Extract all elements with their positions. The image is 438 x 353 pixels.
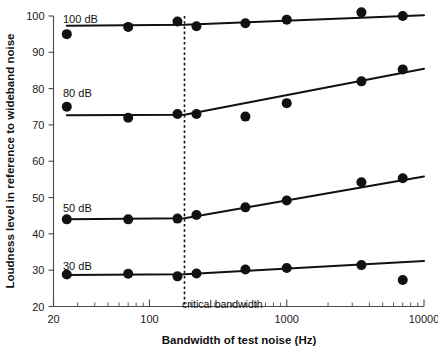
data-point (356, 177, 366, 187)
y-tick-label: 100 (26, 10, 44, 22)
fit-line-80-db (67, 69, 424, 115)
fit-line-50-db (67, 177, 424, 220)
data-point (398, 275, 408, 285)
x-axis-tick-labels: 20100100010000 (47, 313, 438, 325)
chart-annotations: critical bandwidth (182, 298, 263, 310)
data-point (282, 15, 292, 25)
series-label: 30 dB (63, 260, 92, 272)
x-axis-title: Bandwidth of test noise (Hz) (162, 334, 317, 346)
data-point (282, 263, 292, 273)
data-point (240, 202, 250, 212)
series-fit-lines (67, 15, 424, 275)
data-point (123, 269, 133, 279)
series-label: 100 dB (63, 13, 98, 25)
data-point (398, 173, 408, 183)
data-point (172, 16, 182, 26)
data-point (123, 214, 133, 224)
data-point (282, 195, 292, 205)
data-point (123, 22, 133, 32)
y-tick-label: 20 (32, 301, 44, 313)
chart-axes (54, 16, 425, 307)
series-label: 80 dB (63, 87, 92, 99)
x-tick-label: 1000 (274, 313, 298, 325)
data-point (191, 21, 201, 31)
data-point (240, 112, 250, 122)
y-tick-label: 60 (32, 155, 44, 167)
y-axis-ticks (49, 16, 54, 307)
data-point (240, 18, 250, 28)
x-tick-label: 10000 (409, 313, 438, 325)
x-tick-label: 100 (140, 313, 158, 325)
data-point (62, 102, 72, 112)
data-point (356, 260, 366, 270)
data-point (398, 64, 408, 74)
y-tick-label: 30 (32, 264, 44, 276)
series-data-points (62, 7, 408, 285)
data-point (172, 214, 182, 224)
data-point (172, 271, 182, 281)
data-point (398, 11, 408, 21)
data-point (356, 7, 366, 17)
y-tick-label: 40 (32, 228, 44, 240)
series-label: 50 dB (63, 202, 92, 214)
y-tick-label: 70 (32, 119, 44, 131)
chart-canvas: 2030405060708090100 20100100010000 100 d… (0, 0, 438, 353)
y-axis-title: Loudness level in reference to wideband … (4, 34, 16, 289)
critical-bandwidth-label: critical bandwidth (182, 298, 263, 310)
data-point (191, 268, 201, 278)
data-point (62, 29, 72, 39)
x-tick-label: 20 (47, 313, 59, 325)
data-point (356, 76, 366, 86)
data-point (123, 113, 133, 123)
data-point (240, 264, 250, 274)
y-axis-tick-labels: 2030405060708090100 (26, 10, 44, 313)
data-point (191, 109, 201, 119)
loudness-level-chart: 2030405060708090100 20100100010000 100 d… (0, 0, 438, 353)
data-point (172, 109, 182, 119)
data-point (282, 98, 292, 108)
series-inline-labels: 100 dB80 dB50 dB30 dB (63, 13, 98, 272)
y-tick-label: 90 (32, 46, 44, 58)
data-point (62, 214, 72, 224)
data-point (191, 210, 201, 220)
y-tick-label: 50 (32, 192, 44, 204)
y-tick-label: 80 (32, 83, 44, 95)
